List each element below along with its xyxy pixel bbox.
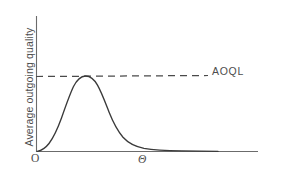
x-axis-label: Θ <box>138 153 146 165</box>
chart-plot-area <box>0 0 281 172</box>
aoql-label: AOQL <box>212 65 244 77</box>
aoq-chart-figure: Average outgoing quality AOQL Θ O <box>0 0 281 172</box>
aoq-curve-path <box>37 76 218 151</box>
aoql-reference-line <box>36 76 208 77</box>
origin-label: O <box>31 152 39 164</box>
y-axis-label: Average outgoing quality <box>23 19 35 155</box>
